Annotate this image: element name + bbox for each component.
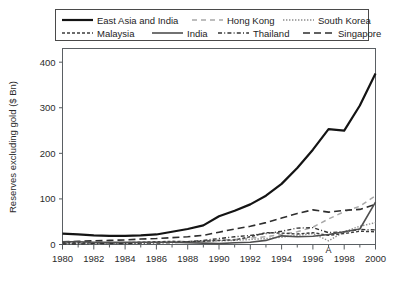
annotation-layer: A [326,245,332,255]
legend-label-singapore: Singapore [338,28,381,39]
x-tick-label: 1980 [52,253,73,264]
x-tick-label: 1982 [83,253,104,264]
legend-label-thailand: Thailand [253,28,289,39]
chart-legend: East Asia and India Hong Kong South Kore… [56,10,382,41]
y-tick-label: 0 [50,239,55,250]
legend-label-india: India [187,28,208,39]
x-tick-label: 1996 [302,253,323,264]
reserves-line-chart: East Asia and India Hong Kong South Kore… [0,0,393,284]
x-tick-label: 1984 [115,253,136,264]
x-tick-label: 1990 [208,253,229,264]
x-tick-label: 2000 [365,253,386,264]
legend-label-malaysia: Malaysia [97,28,135,39]
y-tick-label: 200 [40,148,56,159]
legend-label-east-asia-and-india: East Asia and India [97,15,179,26]
y-tick-label: 400 [40,57,56,68]
legend-label-hong-kong: Hong Kong [227,15,275,26]
x-tick-label: 1992 [240,253,261,264]
chart-figure: East Asia and India Hong Kong South Kore… [0,0,393,284]
x-tick-label: 1998 [334,253,355,264]
x-tick-label: 1986 [146,253,167,264]
x-tick-label: 1994 [271,253,292,264]
legend-label-south-korea: South Korea [318,15,372,26]
y-axis-label: Reserves excluding gold ($ Bn) [7,81,18,213]
x-tick-label: 1988 [177,253,198,264]
annotation-label: A [326,245,332,255]
y-tick-label: 300 [40,102,56,113]
y-tick-label: 100 [40,193,56,204]
